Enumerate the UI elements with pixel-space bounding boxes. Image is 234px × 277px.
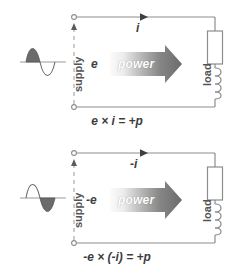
current-direction-arrowhead bbox=[140, 149, 148, 157]
load-label: load bbox=[202, 199, 213, 222]
power-flow-arrow bbox=[110, 181, 182, 219]
power-flow-arrow bbox=[110, 45, 182, 83]
circuit-top: supply load e i power e × i = +p bbox=[0, 0, 234, 138]
current-label: -i bbox=[130, 158, 137, 170]
power-equation: e × i = +p bbox=[0, 115, 234, 127]
current-direction-arrowhead bbox=[140, 13, 148, 21]
supply-label: supply bbox=[73, 193, 84, 228]
supply-label: supply bbox=[73, 57, 84, 92]
load-label: load bbox=[202, 63, 213, 86]
current-label: i bbox=[136, 22, 139, 34]
load-inductor bbox=[215, 204, 221, 235]
sine-wave-negative-half-shaded bbox=[20, 185, 66, 212]
power-flow-diagram: supply load e i power e × i = +p bbox=[0, 0, 234, 277]
load-resistor bbox=[208, 167, 223, 200]
voltage-label: -e bbox=[86, 194, 97, 206]
sine-wave-positive-half-shaded bbox=[20, 49, 66, 76]
load-resistor bbox=[208, 31, 223, 64]
supply-terminal-bottom bbox=[72, 241, 77, 246]
load-inductor bbox=[215, 68, 221, 99]
voltage-label: e bbox=[91, 58, 98, 70]
power-equation: -e × (-i) = +p bbox=[0, 251, 234, 263]
circuit-bottom: supply load -e -i power -e × (-i) = +p bbox=[0, 136, 234, 274]
supply-terminal-top bbox=[72, 151, 77, 156]
supply-terminal-bottom bbox=[72, 105, 77, 110]
supply-terminal-top bbox=[72, 15, 77, 20]
